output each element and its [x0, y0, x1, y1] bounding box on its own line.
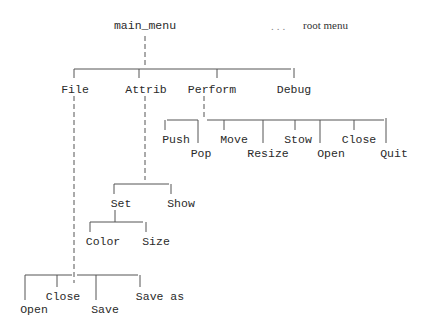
node-save: Save	[91, 304, 119, 316]
node-close-perform: Close	[342, 134, 377, 146]
node-resize: Resize	[247, 148, 288, 160]
node-perform: Perform	[188, 84, 236, 96]
node-save-as: Save as	[136, 291, 184, 303]
node-open-perform: Open	[317, 148, 345, 160]
node-set: Set	[111, 198, 132, 210]
node-main-menu: main_menu	[114, 20, 176, 32]
node-file: File	[61, 84, 89, 96]
node-stow: Stow	[284, 134, 312, 146]
node-pop: Pop	[191, 148, 212, 160]
tree-connectors	[0, 0, 431, 328]
legend-dots: ...	[271, 20, 288, 32]
node-attrib: Attrib	[125, 84, 166, 96]
node-debug: Debug	[277, 84, 312, 96]
node-open-file: Open	[20, 304, 48, 316]
node-color: Color	[86, 236, 121, 248]
node-show: Show	[167, 198, 195, 210]
node-size: Size	[142, 236, 170, 248]
node-quit: Quit	[380, 148, 408, 160]
menu-tree-diagram: main_menu ... root menu File Attrib Perf…	[0, 0, 431, 328]
node-move: Move	[220, 134, 248, 146]
legend-root-menu: root menu	[303, 19, 348, 31]
node-push: Push	[162, 134, 190, 146]
node-close-file: Close	[46, 291, 81, 303]
